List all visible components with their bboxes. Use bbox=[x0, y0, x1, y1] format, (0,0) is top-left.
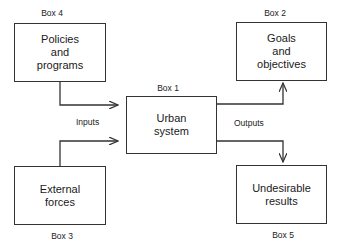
box4-policies-and-programs: Policies and programs bbox=[14, 23, 106, 82]
box5-label: Box 5 bbox=[253, 230, 313, 240]
box3-label: Box 3 bbox=[32, 231, 92, 241]
box4-text: Policies and programs bbox=[37, 33, 83, 72]
inputs-label: Inputs bbox=[76, 117, 99, 127]
outputs-label: Outputs bbox=[234, 118, 264, 128]
box2-text: Goals and objectives bbox=[257, 32, 306, 71]
edge-box1-to-box5 bbox=[216, 141, 283, 162]
edge-box4-to-box1 bbox=[60, 81, 118, 105]
edge-box3-to-box1 bbox=[60, 141, 118, 166]
box3-text: External forces bbox=[40, 183, 80, 209]
box3-external-forces: External forces bbox=[14, 166, 106, 225]
box2-goals-and-objectives: Goals and objectives bbox=[236, 22, 327, 81]
box1-label: Box 1 bbox=[138, 83, 198, 93]
box2-label: Box 2 bbox=[245, 8, 305, 18]
box1-urban-system: Urban system bbox=[126, 96, 217, 154]
box4-label: Box 4 bbox=[22, 8, 82, 18]
box5-text: Undesirable results bbox=[252, 182, 311, 208]
box5-undesirable-results: Undesirable results bbox=[236, 165, 327, 224]
box1-text: Urban system bbox=[154, 112, 189, 138]
edge-box1-to-box2 bbox=[216, 83, 283, 104]
